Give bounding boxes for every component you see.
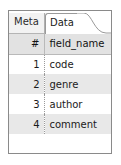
tab-data-label: Data: [50, 17, 74, 28]
header-cell-field-name[interactable]: field_name: [44, 34, 111, 54]
tab-meta[interactable]: Meta: [9, 13, 45, 34]
data-panel: Meta Data # field_name 1 code 2 genre: [8, 10, 112, 154]
row-number: 3: [9, 94, 44, 114]
tab-tail-decoration: [76, 13, 111, 34]
tab-meta-label: Meta: [14, 16, 39, 27]
table-row[interactable]: 2 genre: [9, 74, 111, 94]
tab-strip: Meta Data: [9, 11, 111, 34]
row-number: 1: [9, 54, 44, 74]
tab-data[interactable]: Data: [45, 13, 77, 34]
row-field-name: code: [44, 54, 111, 74]
table-header-row: # field_name: [9, 34, 111, 54]
row-field-name: author: [44, 94, 111, 114]
table-row[interactable]: 4 comment: [9, 114, 111, 134]
row-number: 4: [9, 114, 44, 134]
field-table: # field_name 1 code 2 genre 3 author 4 c…: [9, 34, 111, 134]
row-field-name: comment: [44, 114, 111, 134]
table-row[interactable]: 3 author: [9, 94, 111, 114]
row-number: 2: [9, 74, 44, 94]
table-row[interactable]: 1 code: [9, 54, 111, 74]
header-cell-num[interactable]: #: [9, 34, 44, 54]
row-field-name: genre: [44, 74, 111, 94]
